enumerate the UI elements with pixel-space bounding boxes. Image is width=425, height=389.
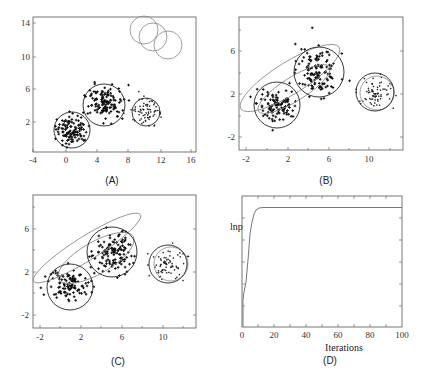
panel-c-ytick-labels: -2 2 6 bbox=[22, 224, 30, 320]
svg-text:-2: -2 bbox=[228, 132, 236, 142]
panel-b-xtick-labels: -2 2 6 10 bbox=[242, 154, 374, 164]
panel-a-ytick-labels: 2 6 10 14 bbox=[21, 18, 31, 127]
panel-a-data-points bbox=[54, 81, 162, 149]
svg-text:4: 4 bbox=[95, 155, 100, 165]
panel-b-gray-components bbox=[232, 34, 394, 123]
panel-a-caption: (A) bbox=[105, 175, 118, 186]
svg-text:12: 12 bbox=[157, 155, 166, 165]
svg-text:0: 0 bbox=[64, 155, 69, 165]
panel-a-ticks bbox=[33, 23, 191, 152]
svg-text:-2: -2 bbox=[36, 332, 44, 342]
panel-b-data-points bbox=[249, 26, 397, 131]
svg-text:-4: -4 bbox=[29, 155, 37, 165]
svg-text:60: 60 bbox=[334, 330, 344, 340]
panel-c-gray-components bbox=[27, 204, 188, 293]
svg-text:40: 40 bbox=[302, 330, 312, 340]
panel-b: -2 2 6 10 -2 2 6 (B) bbox=[228, 17, 404, 186]
svg-text:6: 6 bbox=[25, 224, 30, 234]
svg-text:6: 6 bbox=[26, 84, 31, 94]
svg-text:6: 6 bbox=[120, 332, 125, 342]
panel-c: -2 2 6 10 -2 2 6 (C) bbox=[22, 195, 197, 367]
panel-a-xtick-labels: -4 0 4 8 12 16 bbox=[29, 155, 196, 165]
panel-d-loglik-line bbox=[243, 208, 402, 328]
panel-c-data-points bbox=[40, 226, 190, 302]
svg-text:2: 2 bbox=[25, 267, 30, 277]
panel-c-cluster-circles bbox=[47, 227, 187, 310]
svg-text:100: 100 bbox=[395, 330, 409, 340]
panel-d: 0 20 40 60 80 100 lnp Iterations (D) bbox=[230, 196, 409, 366]
svg-text:2: 2 bbox=[231, 89, 236, 99]
panel-c-axes-frame bbox=[33, 195, 196, 328]
panel-d-ticks bbox=[242, 196, 402, 327]
svg-text:-2: -2 bbox=[242, 154, 250, 164]
svg-text:6: 6 bbox=[231, 46, 236, 56]
figure: -4 0 4 8 12 16 2 6 10 14 (A) bbox=[0, 0, 425, 389]
svg-text:20: 20 bbox=[270, 330, 280, 340]
panel-d-xlabel: Iterations bbox=[325, 342, 363, 353]
panel-a: -4 0 4 8 12 16 2 6 10 14 (A) bbox=[21, 16, 196, 186]
panel-d-axes-frame bbox=[242, 196, 402, 327]
svg-text:14: 14 bbox=[21, 18, 31, 28]
panel-a-initial-components bbox=[130, 16, 182, 59]
svg-text:-2: -2 bbox=[22, 310, 30, 320]
svg-text:8: 8 bbox=[126, 155, 131, 165]
svg-text:0: 0 bbox=[240, 330, 245, 340]
svg-text:6: 6 bbox=[327, 154, 332, 164]
panel-b-caption: (B) bbox=[319, 175, 332, 186]
svg-text:80: 80 bbox=[366, 330, 376, 340]
svg-text:2: 2 bbox=[26, 117, 31, 127]
panel-d-ylabel: lnp bbox=[230, 221, 243, 232]
svg-text:10: 10 bbox=[159, 332, 169, 342]
panel-c-caption: (C) bbox=[111, 356, 125, 367]
svg-text:16: 16 bbox=[187, 155, 197, 165]
panel-c-xtick-labels: -2 2 6 10 bbox=[36, 332, 168, 342]
svg-text:2: 2 bbox=[79, 332, 84, 342]
svg-text:10: 10 bbox=[365, 154, 375, 164]
svg-text:10: 10 bbox=[21, 52, 31, 62]
panel-d-xtick-labels: 0 20 40 60 80 100 bbox=[240, 330, 410, 340]
panel-b-ytick-labels: -2 2 6 bbox=[228, 46, 236, 142]
panel-d-caption: (D) bbox=[323, 355, 337, 366]
svg-text:2: 2 bbox=[286, 154, 291, 164]
